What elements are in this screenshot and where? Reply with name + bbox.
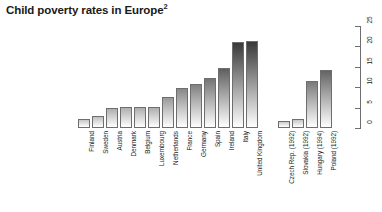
- x-axis-tick-label: Italy: [241, 131, 250, 211]
- y-axis-tick: [355, 26, 361, 27]
- bar-fill: [307, 82, 317, 127]
- bar: [78, 119, 90, 128]
- y-axis-tick-label: 15: [366, 51, 374, 71]
- bar-fill: [79, 120, 89, 127]
- bar-fill: [93, 117, 103, 127]
- bar: [292, 119, 304, 128]
- bar: [320, 70, 332, 128]
- bar: [278, 121, 290, 128]
- y-axis-tick: [355, 108, 361, 109]
- bar-fill: [233, 43, 243, 127]
- y-axis-tick-label: 25: [366, 10, 374, 30]
- bar: [120, 107, 132, 128]
- x-axis-tick-label: Belgium: [143, 131, 152, 211]
- x-axis-tick-label: France: [185, 131, 194, 211]
- bar-fill: [149, 108, 159, 127]
- x-axis-tick-label: Czech Rep. (1992): [287, 131, 296, 211]
- bar-fill: [135, 108, 145, 127]
- bar-fill: [279, 122, 289, 127]
- bar-fill: [219, 69, 229, 127]
- bar-fill: [177, 89, 187, 127]
- y-axis-tick: [355, 87, 361, 88]
- bar: [190, 84, 202, 128]
- x-axis-tick-label: Ireland: [227, 131, 236, 211]
- x-axis-tick-label: Austria: [115, 131, 124, 211]
- bar-fill: [107, 109, 117, 127]
- y-axis-tick: [355, 46, 361, 47]
- x-axis-tick-label: United Kingdom: [255, 131, 264, 211]
- y-axis-tick: [355, 67, 361, 68]
- bar: [106, 108, 118, 128]
- y-axis-tick-label: 5: [366, 92, 374, 112]
- bar: [162, 97, 174, 128]
- bar-fill: [321, 71, 331, 127]
- y-axis-tick-label: 0: [366, 112, 374, 132]
- chart-figure: Child poverty rates in Europe2 051015202…: [0, 0, 382, 212]
- x-axis-tick-label: Netherlands: [171, 131, 180, 211]
- bar: [306, 81, 318, 128]
- x-axis-tick-label: Sweden: [101, 131, 110, 211]
- y-axis-tick-label: 20: [366, 30, 374, 50]
- bar: [134, 107, 146, 128]
- bar: [204, 78, 216, 128]
- bar-fill: [163, 98, 173, 127]
- plot-area: 0510152025 FinlandSwedenAustriaDenmarkBe…: [0, 0, 382, 212]
- bar-fill: [293, 120, 303, 127]
- x-axis-tick-label: Hungary (1994): [315, 131, 324, 211]
- bar: [232, 42, 244, 128]
- x-axis-tick-label: Luxembourg: [157, 131, 166, 211]
- bar: [92, 116, 104, 128]
- y-axis-tick: [355, 128, 361, 129]
- y-axis-line: [360, 26, 361, 128]
- x-axis-tick-label: Spain: [213, 131, 222, 211]
- bar: [176, 88, 188, 128]
- x-axis-tick-label: Finland: [87, 131, 96, 211]
- bar: [246, 41, 258, 128]
- y-axis-tick-label: 10: [366, 71, 374, 91]
- bar-fill: [191, 85, 201, 127]
- x-axis-tick-label: Slovakia (1992): [301, 131, 310, 211]
- x-axis-tick-label: Denmark: [129, 131, 138, 211]
- x-axis-tick-label: Poland (1992): [329, 131, 338, 211]
- bar-fill: [247, 42, 257, 127]
- bar-fill: [121, 108, 131, 127]
- bar-fill: [205, 79, 215, 127]
- bar: [148, 107, 160, 128]
- bar: [218, 68, 230, 128]
- x-axis-tick-label: Germany: [199, 131, 208, 211]
